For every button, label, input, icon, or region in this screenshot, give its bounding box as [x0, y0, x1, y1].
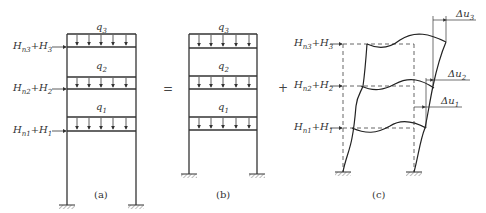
- frame-a-horizontal-load-arrows: [52, 47, 66, 131]
- frame-a-q3-label: q3: [96, 22, 107, 35]
- frame-a-h1-label: Hn1+H1: [13, 125, 52, 138]
- delta-u2-label: Δu2: [448, 69, 466, 82]
- frame-a-q2-label: q2: [96, 61, 107, 74]
- caption-c: (c): [372, 190, 385, 200]
- frame-c-h2-label: Hn2+H2: [294, 80, 333, 93]
- caption-a: (a): [94, 190, 108, 200]
- frame-a-h3-label: Hn3+H3: [13, 41, 52, 54]
- frame-c-beam-1-deformed: [352, 122, 426, 133]
- frame-c-beam-3-deformed: [367, 34, 446, 47]
- frame-c-beam-2-deformed: [361, 80, 434, 90]
- frame-c-h3-label: Hn3+H3: [294, 38, 333, 51]
- frame-a-q1-label: q1: [96, 102, 107, 115]
- structural-frame-diagram: [0, 0, 486, 213]
- delta-u1-label: Δu1: [441, 96, 459, 109]
- delta-u3-label: Δu3: [456, 9, 474, 22]
- frame-c-h1-label: Hn1+H1: [294, 122, 333, 135]
- frame-b-q2-label: q2: [218, 61, 229, 74]
- frame-b-supports: [181, 174, 265, 178]
- frame-a-supports: [59, 205, 144, 209]
- equals-sign: =: [163, 83, 173, 95]
- frame-c-original-shape: [343, 44, 414, 172]
- frame-b-q1-label: q1: [218, 102, 229, 115]
- frame-b-q3-label: q3: [218, 22, 229, 35]
- caption-b: (b): [216, 190, 230, 200]
- plus-sign: +: [278, 82, 288, 94]
- frame-c-left-column-deformed: [343, 44, 367, 172]
- frame-c-deformed-shape: [343, 34, 446, 172]
- frame-c-displacement-dimensions: [414, 16, 476, 128]
- frame-a-h2-label: Hn2+H2: [13, 83, 52, 96]
- frame-c-supports: [335, 172, 422, 176]
